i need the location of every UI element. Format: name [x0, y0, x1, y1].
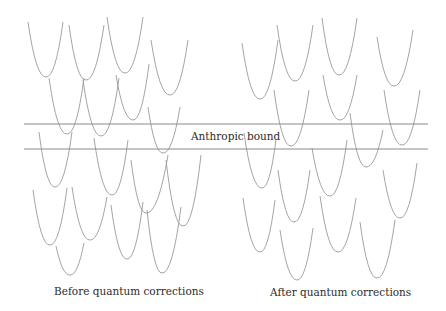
potential-well-curve	[56, 243, 84, 275]
potential-well-curve	[94, 138, 128, 195]
before-corrections-caption: Before quantum corrections	[54, 285, 204, 297]
potential-well-curve	[384, 90, 420, 145]
potential-well-curve	[278, 170, 310, 222]
potential-well-curve	[49, 78, 84, 134]
after-corrections-caption: After quantum corrections	[270, 286, 411, 298]
potential-well-curve	[111, 202, 143, 259]
potential-well-curve	[312, 140, 347, 196]
potential-wells-canvas	[0, 0, 446, 311]
potential-well-curve	[377, 30, 413, 86]
potential-well-curve	[72, 187, 107, 240]
potential-well-curve	[242, 40, 278, 99]
potential-well-curve	[116, 64, 149, 120]
potential-well-curve	[322, 18, 357, 75]
potential-well-curve	[277, 25, 313, 81]
potential-well-curve	[166, 155, 201, 226]
potential-well-curve	[383, 163, 417, 218]
potential-well-curve	[33, 188, 67, 245]
potential-well-curve	[83, 78, 119, 136]
potential-well-curve	[243, 198, 275, 252]
potential-well-curve	[148, 107, 180, 153]
potential-well-curve	[323, 75, 357, 120]
potential-well-curve	[151, 40, 188, 95]
potential-well-curve	[131, 155, 168, 213]
anthropic-bound-label: Anthropic bound	[191, 130, 280, 142]
potential-well-curve	[320, 196, 356, 252]
potential-well-curve	[28, 22, 63, 77]
potential-well-curve	[39, 132, 72, 187]
potential-well-curve	[107, 17, 143, 73]
landscape-diagram: Anthropic bound Before quantum correctio…	[0, 0, 446, 311]
potential-well-curve	[69, 25, 104, 80]
potential-well-curve	[280, 228, 313, 280]
wells-before-corrections	[28, 17, 201, 275]
potential-well-curve	[350, 113, 383, 167]
potential-well-curve	[360, 220, 395, 278]
